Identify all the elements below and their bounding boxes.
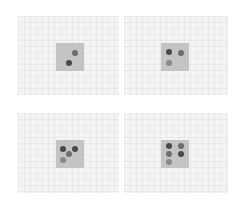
dot-icon <box>66 151 72 157</box>
dot-icon <box>60 146 66 152</box>
dot-icon <box>166 151 172 157</box>
dot-icon <box>166 143 172 149</box>
dot-icon <box>166 60 172 66</box>
dot-icon <box>72 50 78 56</box>
dot-square <box>56 43 84 71</box>
dot-icon <box>178 143 184 149</box>
dot-icon <box>178 151 184 157</box>
dot-icon <box>166 49 172 55</box>
dot-icon <box>178 50 184 56</box>
dot-icon <box>72 146 78 152</box>
dot-icon <box>166 159 172 165</box>
dot-icon <box>60 157 66 163</box>
dot-icon <box>66 60 72 66</box>
dot-square <box>161 43 189 71</box>
